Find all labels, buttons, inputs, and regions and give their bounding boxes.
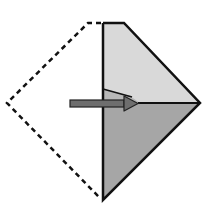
upper-face [103, 23, 200, 103]
dashed-fold-outline [7, 23, 101, 198]
origami-diagram [0, 0, 220, 208]
